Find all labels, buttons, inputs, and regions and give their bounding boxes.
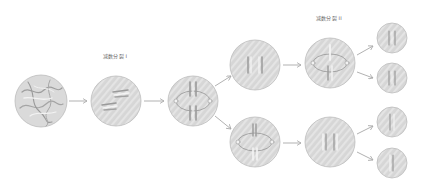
gamete-1: [377, 23, 407, 53]
cell-daughter-top: [230, 40, 280, 90]
cell-daughter-bottom: [230, 117, 280, 167]
meiosis-2-label: 减数分裂 II: [316, 14, 342, 21]
meiosis-1-label: 减数分裂 I: [103, 52, 127, 59]
arrow-to-gamete-4: [357, 152, 373, 160]
cell-prophase-1: [91, 76, 141, 126]
gamete-3: [377, 107, 407, 137]
cell-interphase: [15, 75, 67, 127]
arrow-to-gamete-1: [357, 46, 373, 55]
arrow-metaphase-1-to-daughter-bottom: [215, 116, 231, 129]
cell-metaphase-2-bottom: [305, 117, 355, 167]
cell-metaphase-2-top: [305, 38, 355, 88]
meiosis-diagram: [0, 0, 422, 191]
gamete-2: [377, 63, 407, 93]
arrow-metaphase-1-to-daughter-top: [215, 76, 231, 86]
arrow-to-gamete-3: [357, 126, 373, 134]
gamete-4: [377, 148, 407, 178]
arrow-to-gamete-2: [357, 72, 373, 78]
cell-metaphase-1: [168, 76, 218, 126]
